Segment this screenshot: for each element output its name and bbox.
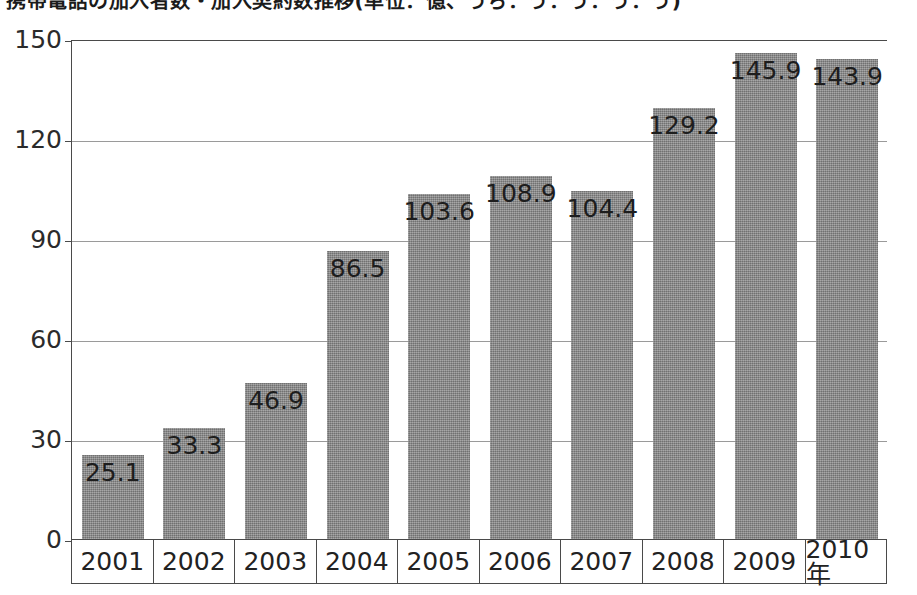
bars: 25.133.346.986.5103.6108.9104.4129.2145.… xyxy=(72,41,887,539)
bar-value-label: 104.4 xyxy=(562,196,644,221)
bar-value-label: 129.2 xyxy=(643,113,725,138)
x-axis-tick-label-text: 2004 xyxy=(325,549,389,574)
x-axis-tick-label-text: 2002 xyxy=(162,549,226,574)
bar-group: 145.9 xyxy=(725,41,807,539)
bar-value-label: 108.9 xyxy=(480,181,562,206)
bar-group: 46.9 xyxy=(235,41,317,539)
x-axis-tick-label-text: 2008 xyxy=(651,549,715,574)
bar-chart: 0306090120150 25.133.346.986.5103.6108.9… xyxy=(0,0,917,595)
y-axis-tick-mark xyxy=(65,341,72,342)
bar[interactable] xyxy=(571,191,633,539)
x-axis-tick-label: 2006 xyxy=(480,540,562,583)
bar[interactable] xyxy=(490,176,552,539)
y-axis-tick-mark xyxy=(65,141,72,142)
bar-group: 86.5 xyxy=(317,41,399,539)
x-axis-tick-label-text: 2007 xyxy=(569,549,633,574)
bar[interactable] xyxy=(816,59,878,539)
bar-value-label: 46.9 xyxy=(235,388,317,413)
y-axis-tick-label: 60 xyxy=(0,327,62,352)
bar-group: 129.2 xyxy=(643,41,725,539)
bar-value-label: 86.5 xyxy=(317,256,399,281)
x-axis-tick-label: 2005 xyxy=(398,540,480,583)
plot-area: 25.133.346.986.5103.6108.9104.4129.2145.… xyxy=(71,40,887,540)
bar-value-label: 103.6 xyxy=(398,199,480,224)
bar-group: 104.4 xyxy=(562,41,644,539)
bar[interactable] xyxy=(327,251,389,539)
x-axis-tick-label: 2009 xyxy=(724,540,806,583)
bar[interactable] xyxy=(408,194,470,539)
y-axis-tick-label: 90 xyxy=(0,227,62,252)
bar-group: 108.9 xyxy=(480,41,562,539)
y-axis-tick-label: 0 xyxy=(0,527,62,552)
x-axis-tick-label: 2003 xyxy=(235,540,317,583)
x-axis-tick-label-text: 2006 xyxy=(488,549,552,574)
x-axis: 2001200220032004200520062007200820092010… xyxy=(71,540,887,584)
x-axis-tick-label-text: 2010年 xyxy=(806,537,887,587)
bar-value-label: 145.9 xyxy=(725,58,807,83)
x-axis-tick-label: 2004 xyxy=(317,540,399,583)
y-axis-tick-label: 150 xyxy=(0,27,62,52)
bar-value-label: 143.9 xyxy=(806,64,888,89)
bar[interactable] xyxy=(653,108,715,539)
y-axis-tick-mark xyxy=(65,241,72,242)
x-axis-tick-label: 2008 xyxy=(643,540,725,583)
x-axis-tick-label: 2007 xyxy=(561,540,643,583)
bar-group: 143.9 xyxy=(806,41,888,539)
y-axis-tick-mark xyxy=(65,41,72,42)
x-axis-tick-label-text: 2003 xyxy=(243,549,307,574)
x-axis-tick-label-text: 2001 xyxy=(80,549,144,574)
y-axis-tick-label: 30 xyxy=(0,427,62,452)
bar[interactable] xyxy=(735,53,797,539)
x-axis-tick-label: 2001 xyxy=(72,540,154,583)
bar-group: 33.3 xyxy=(154,41,236,539)
y-axis-tick-mark xyxy=(65,441,72,442)
x-axis-tick-label: 2010年 xyxy=(806,540,887,583)
bar-value-label: 33.3 xyxy=(154,433,236,458)
bar-value-label: 25.1 xyxy=(72,460,154,485)
bar-group: 103.6 xyxy=(398,41,480,539)
x-axis-tick-label-text: 2009 xyxy=(732,549,796,574)
bar-group: 25.1 xyxy=(72,41,154,539)
y-axis-tick-label: 120 xyxy=(0,127,62,152)
x-axis-tick-label-text: 2005 xyxy=(406,549,470,574)
x-axis-tick-label: 2002 xyxy=(154,540,236,583)
